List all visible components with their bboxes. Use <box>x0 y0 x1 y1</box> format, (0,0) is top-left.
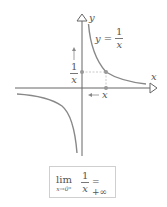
limit-operator: lim x→0⁺ <box>56 175 72 192</box>
function-numerator: 1 <box>115 27 123 37</box>
limit-fraction: 1 x <box>81 171 89 194</box>
y-axis-label: y <box>89 13 95 23</box>
point-on-curve <box>104 70 108 74</box>
y-value-numerator: 1 <box>70 62 78 72</box>
y-value-label: 1 x <box>70 62 78 85</box>
limit-numerator: 1 <box>81 171 89 181</box>
x-axis-label: x <box>151 72 157 82</box>
y-value-denominator: x <box>71 75 77 85</box>
limit-denominator: x <box>82 184 88 194</box>
function-lhs: y <box>95 33 101 44</box>
function-label: y = 1 x <box>95 27 123 50</box>
left-arrow-icon <box>88 93 92 97</box>
lim-subscript: x→0⁺ <box>56 186 71 192</box>
up-arrow-icon <box>72 47 76 51</box>
function-equals: = <box>104 33 112 44</box>
function-denominator: x <box>116 40 122 50</box>
y-axis-arrow-icon <box>77 14 87 21</box>
point-on-y-axis <box>80 70 84 74</box>
x-value-label: x <box>102 90 108 100</box>
lim-word: lim <box>56 175 72 185</box>
function-fraction: 1 x <box>115 27 123 50</box>
limit-box: lim x→0⁺ 1 x = +∞ <box>49 166 116 198</box>
limit-result: = +∞ <box>92 177 115 197</box>
curve-negative-branch <box>17 94 77 153</box>
x-axis-arrow-icon <box>150 83 157 93</box>
